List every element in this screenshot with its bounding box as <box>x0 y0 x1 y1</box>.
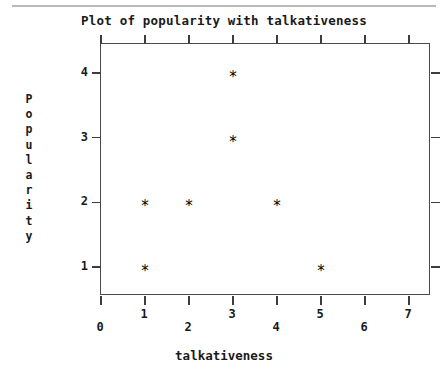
y-axis-title: Popularity <box>20 92 38 244</box>
x-axis-tick-label: 2 <box>184 320 191 334</box>
y-axis-tick-label: 2 <box>70 194 88 208</box>
y-axis-tick-label: 1 <box>70 259 88 273</box>
y-axis-title-letter: u <box>20 138 38 153</box>
plot-frame: ******* <box>100 43 430 295</box>
x-axis-tick-top <box>408 35 409 44</box>
x-axis-tick-bottom <box>320 296 321 305</box>
x-axis-tick-bottom <box>188 296 189 305</box>
y-axis-tick-left <box>92 72 101 73</box>
scan-artifact-line <box>12 5 436 7</box>
y-axis-title-letter: o <box>20 107 38 122</box>
y-axis-tick-left <box>92 137 101 138</box>
y-axis-tick-label: 4 <box>70 65 88 79</box>
x-axis-tick-label: 3 <box>228 307 235 321</box>
x-axis-tick-label: 5 <box>316 307 323 321</box>
x-axis-tick-top <box>232 35 233 44</box>
x-axis-tick-bottom <box>144 296 145 305</box>
x-axis-tick-top <box>144 35 145 44</box>
y-axis-title-letter: r <box>20 183 38 198</box>
x-axis-tick-bottom <box>408 296 409 305</box>
y-axis-tick-right <box>431 266 440 267</box>
x-axis-tick-bottom <box>100 296 101 305</box>
y-axis-tick-left <box>92 202 101 203</box>
y-axis-title-letter: p <box>20 122 38 137</box>
y-axis-title-letter: P <box>20 92 38 107</box>
y-axis-tick-right <box>431 202 440 203</box>
x-axis-tick-top <box>276 35 277 44</box>
y-axis-tick-right <box>431 137 440 138</box>
y-axis-title-letter: a <box>20 168 38 183</box>
y-axis-title-letter: t <box>20 214 38 229</box>
plot-area: ******* <box>101 44 429 294</box>
y-axis-title-letter: l <box>20 153 38 168</box>
x-axis-tick-top <box>364 35 365 44</box>
x-axis-tick-bottom <box>276 296 277 305</box>
scatter-plot-figure: Plot of popularity with talkativeness Po… <box>0 0 448 379</box>
x-axis-tick-bottom <box>232 296 233 305</box>
x-axis-tick-label: 6 <box>360 320 367 334</box>
chart-title: Plot of popularity with talkativeness <box>0 13 448 28</box>
y-axis-tick-label: 3 <box>70 130 88 144</box>
x-axis-tick-label: 0 <box>96 320 103 334</box>
y-axis-title-letter: i <box>20 198 38 213</box>
x-axis-tick-label: 4 <box>272 320 279 334</box>
x-axis-tick-top <box>188 35 189 44</box>
y-axis-tick-right <box>431 72 440 73</box>
y-axis-title-letter: y <box>20 229 38 244</box>
x-axis-tick-label: 1 <box>140 307 147 321</box>
x-axis-tick-bottom <box>364 296 365 305</box>
x-axis-tick-label: 7 <box>404 307 411 321</box>
x-axis-tick-top <box>320 35 321 44</box>
x-axis-tick-top <box>100 35 101 44</box>
x-axis-title: talkativeness <box>0 348 448 363</box>
y-axis-tick-left <box>92 266 101 267</box>
